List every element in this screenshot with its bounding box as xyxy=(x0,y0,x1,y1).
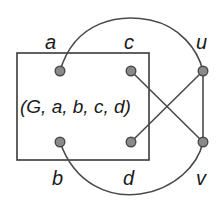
node-c xyxy=(126,66,136,76)
node-a xyxy=(55,66,65,76)
node-b xyxy=(55,137,65,147)
node-label-a: a xyxy=(45,31,56,53)
node-label-b: b xyxy=(52,167,63,189)
center-label: (G, a, b, c, d) xyxy=(20,96,131,117)
node-label-d: d xyxy=(123,167,135,189)
node-v xyxy=(198,137,208,147)
node-label-v: v xyxy=(196,167,207,189)
node-label-u: u xyxy=(196,31,207,53)
graph-diagram: a c u b d v (G, a, b, c, d) xyxy=(0,0,224,204)
node-u xyxy=(198,66,208,76)
node-d xyxy=(126,137,136,147)
node-label-c: c xyxy=(124,31,134,53)
